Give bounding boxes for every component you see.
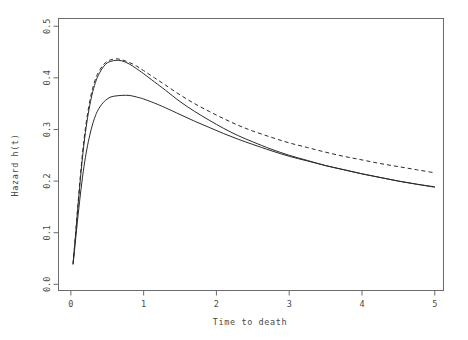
y-tick-label-0.5: 0.5: [43, 19, 53, 34]
x-tick-label-5: 5: [432, 299, 437, 309]
x-tick-label-4: 4: [359, 299, 364, 309]
y-tick-label-0.4: 0.4: [43, 70, 53, 85]
figure-background: [0, 0, 468, 340]
y-tick-label-0.2: 0.2: [43, 173, 53, 188]
y-tick-label-0.1: 0.1: [43, 225, 53, 240]
y-axis-title: Hazard h(t): [10, 134, 20, 197]
y-tick-label-0.3: 0.3: [43, 122, 53, 137]
x-tick-label-2: 2: [214, 299, 219, 309]
x-axis-title: Time to death: [213, 317, 287, 327]
x-tick-label-3: 3: [287, 299, 292, 309]
y-tick-label-0.0: 0.0: [43, 277, 53, 292]
x-tick-label-1: 1: [141, 299, 146, 309]
plot-canvas: 012345 0.00.10.20.30.40.5 Time to death …: [0, 0, 468, 340]
hazard-plot-figure: 012345 0.00.10.20.30.40.5 Time to death …: [0, 0, 468, 340]
x-tick-label-0: 0: [68, 299, 73, 309]
